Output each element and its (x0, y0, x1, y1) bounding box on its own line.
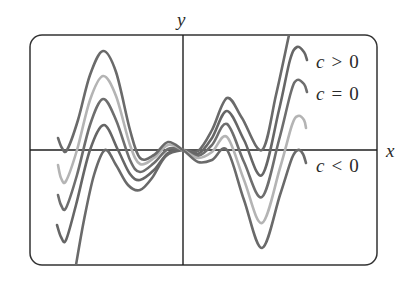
y-axis-label: y (175, 9, 186, 30)
annotation-2: c=0 (316, 83, 359, 104)
annotation-3: c<0 (316, 155, 359, 176)
annotation-1: c>0 (316, 51, 359, 72)
x-axis-label: x (385, 140, 395, 161)
chart-figure: x y c>0c=0c<0 (0, 0, 413, 286)
